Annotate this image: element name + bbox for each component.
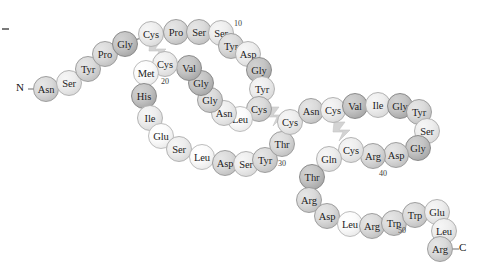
sequence-number-50: 50 [398, 226, 406, 235]
residue-6-cys: Cys [138, 21, 164, 47]
residue-44-thr: Thr [299, 164, 325, 190]
residue-40-asp: Asp [383, 142, 409, 168]
residue-39-gly: Gly [405, 135, 431, 161]
residue-53-arg: Arg [427, 236, 453, 262]
sequence-number-30: 30 [278, 159, 286, 168]
sequence-number-40: 40 [379, 169, 387, 178]
n-terminus-label: N [16, 81, 24, 93]
residue-41-arg: Arg [360, 143, 386, 169]
c-terminus-label: C [459, 241, 466, 253]
peptide-sequence-figure: AsnSerTyrProGlyCysProSerSerTyrAspGlyTyrC… [0, 0, 484, 277]
residue-21-met: Met [133, 60, 159, 86]
residue-19-val: Val [176, 55, 202, 81]
sequence-number-10: 10 [234, 19, 242, 28]
residue-1-asn: Asn [33, 76, 59, 102]
residue-26-leu: Leu [189, 144, 215, 170]
sequence-number-20: 20 [161, 77, 169, 86]
residue-5-gly: Gly [112, 31, 138, 57]
